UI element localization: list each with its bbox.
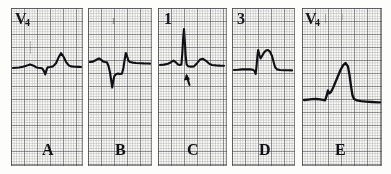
panel-letter-b: B xyxy=(115,142,126,158)
lead-label-c-main: 1 xyxy=(164,10,172,27)
panel-letter-d: D xyxy=(259,142,271,158)
lead-label-d-main: 3 xyxy=(237,10,245,27)
ecg-panel-e[interactable]: V4 E xyxy=(302,8,382,166)
r-wave-marker-c xyxy=(184,30,185,40)
ecg-panel-b[interactable]: I B xyxy=(88,8,152,166)
lead-label-a-subscript: 4 xyxy=(25,17,29,28)
lead-label-e-subscript: 4 xyxy=(315,17,319,28)
calibration-tick-e xyxy=(325,14,326,23)
lead-mark-b: I xyxy=(112,18,115,26)
ecg-figure: V4 A I B 1 C xyxy=(0,0,391,174)
calibration-tick-a xyxy=(30,41,31,54)
panel-letter-a: A xyxy=(42,142,54,158)
lead-label-d: 3 xyxy=(237,11,245,27)
calibration-tick-e2 xyxy=(342,14,343,20)
lead-label-e: V4 xyxy=(305,11,320,28)
ecg-panel-a[interactable]: V4 A xyxy=(11,8,83,166)
panel-letter-e: E xyxy=(335,142,346,158)
lead-label-a: V4 xyxy=(15,11,30,28)
ecg-panel-d[interactable]: 3 D xyxy=(232,8,295,166)
lead-label-c: 1 xyxy=(164,11,172,27)
panel-letter-c: C xyxy=(187,142,199,158)
ecg-panel-c[interactable]: 1 C xyxy=(158,8,227,166)
